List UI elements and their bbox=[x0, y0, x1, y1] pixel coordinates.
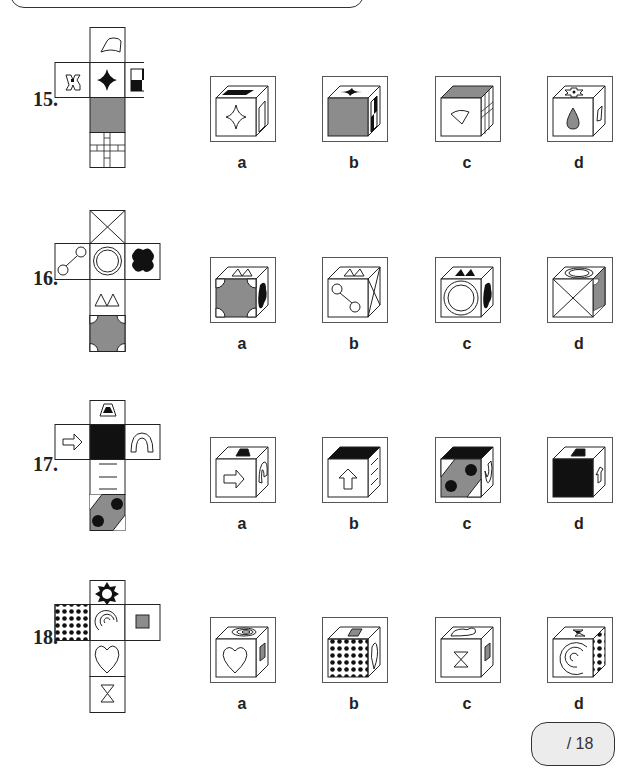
option-15-c[interactable] bbox=[435, 76, 501, 142]
option-label-18-b: b bbox=[344, 695, 364, 713]
option-16-c[interactable] bbox=[435, 257, 501, 323]
option-17-b[interactable] bbox=[322, 437, 388, 503]
option-15-a[interactable] bbox=[210, 76, 276, 142]
option-label-16-c: c bbox=[457, 335, 477, 353]
option-label-16-d: d bbox=[569, 335, 589, 353]
option-label-15-c: c bbox=[457, 154, 477, 172]
option-18-c[interactable] bbox=[435, 617, 501, 683]
option-label-16-a: a bbox=[232, 335, 252, 353]
option-label-16-b: b bbox=[344, 335, 364, 353]
option-label-18-a: a bbox=[232, 695, 252, 713]
option-18-b[interactable] bbox=[322, 617, 388, 683]
option-17-d[interactable] bbox=[547, 437, 613, 503]
option-15-d[interactable] bbox=[547, 76, 613, 142]
option-label-17-d: d bbox=[569, 515, 589, 533]
score-box: / 18 bbox=[531, 722, 615, 766]
option-label-15-d: d bbox=[569, 154, 589, 172]
option-label-17-b: b bbox=[344, 515, 364, 533]
option-label-17-a: a bbox=[232, 515, 252, 533]
option-16-b[interactable] bbox=[322, 257, 388, 323]
option-16-d[interactable] bbox=[547, 257, 613, 323]
option-17-c[interactable] bbox=[435, 437, 501, 503]
cube-net-15 bbox=[54, 27, 144, 187]
option-16-a[interactable] bbox=[210, 257, 276, 323]
option-18-d[interactable] bbox=[547, 617, 613, 683]
cube-net-18 bbox=[54, 580, 164, 715]
option-label-18-d: d bbox=[569, 695, 589, 713]
option-label-15-b: b bbox=[344, 154, 364, 172]
option-17-a[interactable] bbox=[210, 437, 276, 503]
option-15-b[interactable] bbox=[322, 76, 388, 142]
option-label-17-c: c bbox=[457, 515, 477, 533]
cube-net-17 bbox=[54, 400, 164, 535]
option-label-15-a: a bbox=[232, 154, 252, 172]
header-banner bbox=[10, 0, 364, 8]
option-18-a[interactable] bbox=[210, 617, 276, 683]
option-label-18-c: c bbox=[457, 695, 477, 713]
score-text: / 18 bbox=[567, 735, 594, 753]
cube-net-16 bbox=[54, 210, 164, 355]
